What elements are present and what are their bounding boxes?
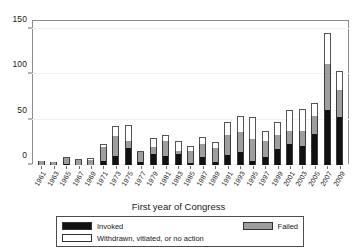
stacked-bar[interactable] xyxy=(224,122,231,165)
stacked-bar[interactable] xyxy=(100,144,107,165)
x-tick-mark xyxy=(66,166,67,169)
bar-segment-withdrawn xyxy=(336,71,343,90)
x-tick-label: 1991 xyxy=(220,170,234,187)
stacked-bar[interactable] xyxy=(286,110,293,165)
x-tick-mark xyxy=(340,166,341,169)
x-tick-cell: 1989 xyxy=(209,166,221,196)
bar-segment-invoked xyxy=(224,155,231,165)
bar-segment-failed xyxy=(249,139,256,162)
chart-legend: Invoked Failed Withdrawn, vitiated, or n… xyxy=(56,216,304,247)
stacked-bar[interactable] xyxy=(150,138,157,165)
stacked-bar[interactable] xyxy=(50,162,57,165)
chart-figure: 050100150 196119631965196719691971197319… xyxy=(0,0,357,252)
x-tick-label: 1961 xyxy=(33,170,47,187)
bar-segment-invoked xyxy=(125,148,132,165)
x-tick-label: 1989 xyxy=(207,170,221,187)
x-tick-label: 2005 xyxy=(307,170,321,187)
x-tick-cell: 1961 xyxy=(35,166,47,196)
x-tick-mark xyxy=(265,166,266,169)
bar-segment-invoked xyxy=(100,161,107,165)
x-tick-cell: 1995 xyxy=(246,166,258,196)
bar-cell xyxy=(222,20,234,165)
bar-segment-failed xyxy=(137,152,144,162)
bar-segment-failed xyxy=(112,136,119,156)
x-tick-mark xyxy=(128,166,129,169)
bar-segment-withdrawn xyxy=(150,138,157,147)
bar-segment-invoked xyxy=(286,144,293,165)
x-axis-title: First year of Congress xyxy=(0,201,357,212)
x-tick-mark xyxy=(103,166,104,169)
bar-cell xyxy=(47,20,59,165)
x-tick-cell: 2003 xyxy=(296,166,308,196)
x-tick-cell: 1993 xyxy=(234,166,246,196)
bar-cell xyxy=(85,20,97,165)
bar-segment-withdrawn xyxy=(112,126,119,136)
bar-segment-withdrawn xyxy=(311,103,318,116)
stacked-bar[interactable] xyxy=(274,122,281,166)
bar-segment-withdrawn xyxy=(299,109,306,132)
bar-cell xyxy=(259,20,271,165)
stacked-bar[interactable] xyxy=(112,126,119,165)
legend-label-invoked: Invoked xyxy=(97,222,123,231)
x-tick-mark xyxy=(302,166,303,169)
x-tick-label: 1973 xyxy=(108,170,122,187)
legend-swatch-failed xyxy=(243,222,273,230)
stacked-bar[interactable] xyxy=(237,116,244,165)
bar-segment-invoked xyxy=(150,154,157,165)
x-tick-mark xyxy=(116,166,117,169)
stacked-bar[interactable] xyxy=(324,33,331,165)
stacked-bar[interactable] xyxy=(63,157,70,165)
x-tick-cell: 1997 xyxy=(259,166,271,196)
bar-segment-failed xyxy=(87,160,94,165)
bar-cell xyxy=(234,20,246,165)
bar-cell xyxy=(135,20,147,165)
stacked-bar[interactable] xyxy=(162,135,169,165)
x-tick-mark xyxy=(203,166,204,169)
bar-cell xyxy=(110,20,122,165)
x-tick-mark xyxy=(141,166,142,169)
x-tick-cell: 1963 xyxy=(47,166,59,196)
bar-segment-failed xyxy=(100,147,107,162)
x-tick-mark xyxy=(240,166,241,169)
bar-segment-withdrawn xyxy=(286,110,293,131)
x-tick-cell: 1965 xyxy=(60,166,72,196)
stacked-bar[interactable] xyxy=(199,137,206,165)
bar-cell xyxy=(309,20,321,165)
bar-segment-withdrawn xyxy=(249,117,256,139)
bar-cell xyxy=(60,20,72,165)
bar-cell xyxy=(271,20,283,165)
x-tick-cell: 1975 xyxy=(122,166,134,196)
y-tick-label: 150 xyxy=(13,14,27,24)
stacked-bar[interactable] xyxy=(38,161,45,165)
x-tick-label: 1987 xyxy=(195,170,209,187)
legend-label-failed: Failed xyxy=(278,222,298,231)
x-tick-mark xyxy=(178,166,179,169)
x-tick-label: 1967 xyxy=(71,170,85,187)
bar-segment-invoked xyxy=(212,162,219,165)
stacked-bar[interactable] xyxy=(212,142,219,165)
x-tick-label: 1997 xyxy=(257,170,271,187)
x-tick-cell: 2009 xyxy=(334,166,346,196)
x-tick-label: 1971 xyxy=(95,170,109,187)
bar-segment-withdrawn xyxy=(224,122,231,135)
stacked-bar[interactable] xyxy=(299,109,306,165)
stacked-bar[interactable] xyxy=(87,158,94,165)
bar-segment-invoked xyxy=(249,161,256,165)
stacked-bar[interactable] xyxy=(311,103,318,165)
bar-segment-invoked xyxy=(162,156,169,165)
bar-segment-invoked xyxy=(274,149,281,165)
bar-segment-withdrawn xyxy=(199,137,206,144)
stacked-bar[interactable] xyxy=(175,141,182,165)
bar-cell xyxy=(184,20,196,165)
stacked-bar[interactable] xyxy=(187,146,194,165)
stacked-bar[interactable] xyxy=(249,117,256,165)
stacked-bar[interactable] xyxy=(262,131,269,165)
stacked-bar[interactable] xyxy=(125,125,132,165)
stacked-bar[interactable] xyxy=(75,159,82,165)
stacked-bar[interactable] xyxy=(336,71,343,165)
legend-entry-failed: Failed xyxy=(243,222,298,231)
stacked-bar[interactable] xyxy=(137,151,144,165)
bar-segment-invoked xyxy=(311,134,318,165)
bar-segment-withdrawn xyxy=(262,131,269,140)
x-tick-cell: 1981 xyxy=(159,166,171,196)
